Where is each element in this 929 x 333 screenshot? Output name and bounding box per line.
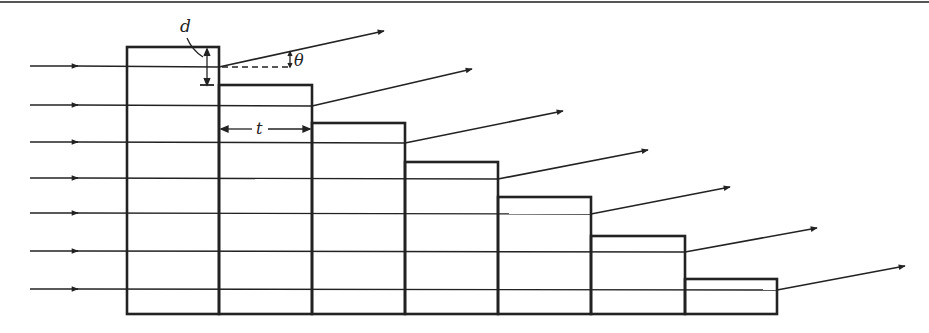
step-3 <box>312 123 405 314</box>
step-width-annotation <box>221 126 310 132</box>
ray-through-glass-6 <box>76 251 685 252</box>
step-width-label: t <box>256 119 263 138</box>
step-7 <box>685 279 777 314</box>
diffracted-ray-arrow-7 <box>777 266 905 290</box>
step-2 <box>219 85 312 314</box>
step-4 <box>405 162 498 314</box>
ray-through-glass-5 <box>76 213 591 214</box>
ray-through-glass-7 <box>76 289 777 290</box>
diffracted-ray-arrow-6 <box>685 228 817 252</box>
ray-through-glass-2 <box>76 105 312 106</box>
diffracted-ray-arrow-4 <box>498 150 648 179</box>
ray-through-glass-1 <box>76 66 219 67</box>
step-6 <box>591 236 685 314</box>
diffracted-ray-arrow-5 <box>591 187 730 214</box>
diffracted-ray-arrow-3 <box>405 111 563 143</box>
light-rays <box>30 31 905 290</box>
deflection-angle-label: θ <box>294 51 304 70</box>
step-height-label: d <box>180 16 191 36</box>
staircase-steps <box>127 47 777 314</box>
echelon-grating-diagram: d θ t <box>0 0 929 333</box>
ray-through-glass-4 <box>76 178 498 179</box>
diffracted-ray-arrow-2 <box>312 69 472 106</box>
ray-through-glass-3 <box>76 142 405 143</box>
step-1 <box>127 47 219 314</box>
step-height-annotation <box>187 38 214 85</box>
